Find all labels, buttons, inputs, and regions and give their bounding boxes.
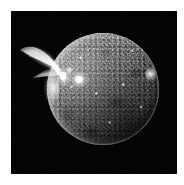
bright-point-scatter <box>47 33 159 145</box>
observation-frame <box>11 11 177 174</box>
image-canvas <box>0 0 184 185</box>
